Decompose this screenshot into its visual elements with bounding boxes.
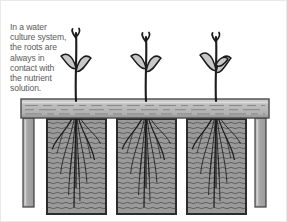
caption-line-4: contact with (10, 63, 54, 73)
leg-left (23, 118, 34, 207)
caption-line-3: always in (10, 53, 45, 63)
caption-line-1: culture system, (10, 32, 66, 42)
caption-line-2: the roots are (10, 42, 57, 52)
nutrient-tanks-group (47, 119, 254, 214)
nutrient-tank-1 (47, 119, 114, 214)
caption-line-5: the nutrient (10, 73, 53, 83)
water-culture-diagram: In a waterculture system,the roots areal… (0, 0, 287, 222)
caption-line-6: solution. (10, 83, 41, 93)
diagram-canvas: In a waterculture system,the roots areal… (1, 1, 287, 222)
caption-line-0: In a water (10, 22, 47, 32)
leg-right (255, 118, 266, 207)
nutrient-tank-3 (187, 119, 254, 214)
support-board-group (21, 99, 269, 118)
nutrient-tank-2 (117, 119, 184, 214)
